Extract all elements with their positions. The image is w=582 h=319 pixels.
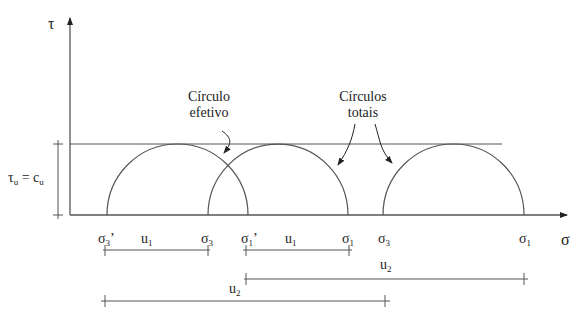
sigma1-label-1: σ1 [342, 232, 354, 248]
mohr-circles-diagram [0, 0, 582, 319]
effective-arrow [222, 131, 230, 153]
u1-label-left: u1 [141, 232, 153, 248]
u2-dimension-lower [101, 295, 390, 307]
tau-axis-label: τ [48, 16, 54, 32]
cu-dimension [53, 140, 63, 219]
total-circle-1 [208, 144, 348, 215]
sigma1-prime-label: σ1’ [241, 232, 258, 248]
u1-dimension-right [243, 245, 352, 256]
total-circles-label: Círculos totais [328, 89, 398, 121]
sigma3-label-1: σ3 [201, 232, 213, 248]
sigma3-prime-label: σ3’ [98, 232, 115, 248]
effective-circle [107, 144, 248, 215]
sigma3-label-2: σ3 [378, 232, 390, 248]
shear-strength-label: τu = cu [8, 171, 44, 187]
u2-dimension-upper [244, 273, 528, 285]
u2-label-upper: u2 [380, 258, 392, 274]
total-circle-2 [383, 144, 524, 215]
u2-label-lower: u2 [229, 282, 241, 298]
u1-dimension-left [103, 245, 210, 256]
u1-label-right: u1 [285, 232, 297, 248]
sigma-axis-label: σ [561, 232, 570, 248]
effective-circle-label: Círculo efetivo [174, 89, 244, 121]
sigma1-label-2: σ1 [519, 232, 531, 248]
